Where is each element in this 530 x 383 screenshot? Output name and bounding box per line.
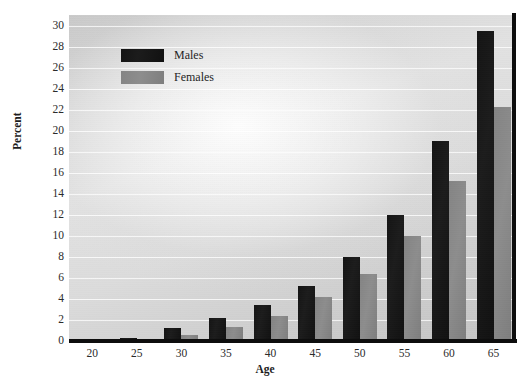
x-tick-label: 55 (384, 347, 424, 359)
bar-females-50 (360, 274, 377, 341)
x-tick-label: 30 (161, 347, 201, 359)
legend-item-males: Males (121, 44, 214, 66)
legend-item-females: Females (121, 66, 214, 88)
y-tick-label: 4 (34, 293, 64, 305)
x-tick-label: 50 (340, 347, 380, 359)
legend-swatch-females-icon (121, 71, 164, 84)
bar-females-60 (449, 181, 466, 341)
bar-males-65 (477, 31, 494, 341)
y-axis-right-line (512, 13, 516, 343)
y-tick-label: 30 (34, 20, 64, 32)
x-tick-label: 25 (117, 347, 157, 359)
x-tick-label: 65 (474, 347, 514, 359)
bar-males-45 (298, 286, 315, 341)
y-axis-title: Percent (11, 113, 23, 150)
y-tick-label: 6 (34, 272, 64, 284)
y-tick-label: 16 (34, 167, 64, 179)
y-tick-label: 20 (34, 125, 64, 137)
x-tick-label: 20 (72, 347, 112, 359)
legend-label-females: Females (174, 70, 214, 85)
y-tick-label: 12 (34, 209, 64, 221)
bar-chart: 024681012141618202224262830 202530354045… (0, 0, 530, 383)
x-tick-label: 40 (251, 347, 291, 359)
bar-females-40 (271, 316, 288, 341)
y-tick-label: 24 (34, 83, 64, 95)
y-tick-label: 26 (34, 62, 64, 74)
y-tick-label: 10 (34, 230, 64, 242)
y-tick-label: 0 (34, 335, 64, 347)
legend: Males Females (121, 44, 214, 88)
bar-females-55 (404, 236, 421, 341)
bar-males-40 (254, 305, 271, 341)
x-tick-label: 35 (206, 347, 246, 359)
y-tick-label: 14 (34, 188, 64, 200)
bar-males-60 (432, 141, 449, 341)
y-axis-tick-labels: 024681012141618202224262830 (26, 15, 64, 341)
y-tick-label: 28 (34, 41, 64, 53)
y-tick-label: 8 (34, 251, 64, 263)
bar-males-55 (387, 215, 404, 341)
x-axis-line (69, 339, 517, 343)
x-axis-title: Age (0, 363, 530, 375)
y-tick-label: 18 (34, 146, 64, 158)
bar-females-45 (315, 297, 332, 341)
bar-females-65 (494, 107, 511, 342)
legend-label-males: Males (174, 48, 203, 63)
x-axis-tick-labels: 20253035404550556065 (69, 347, 515, 363)
y-tick-label: 22 (34, 104, 64, 116)
x-tick-label: 60 (429, 347, 469, 359)
bar-males-50 (343, 257, 360, 341)
bar-males-35 (209, 318, 226, 341)
y-tick-label: 2 (34, 314, 64, 326)
legend-swatch-males-icon (121, 49, 164, 62)
x-tick-label: 45 (295, 347, 335, 359)
